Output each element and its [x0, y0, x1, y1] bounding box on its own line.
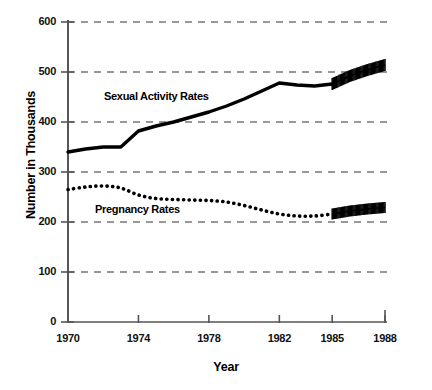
x-axis-title: Year [181, 360, 271, 374]
y-tick-label: 500 [22, 65, 56, 77]
axes [68, 20, 387, 322]
x-tick-label: 1988 [362, 332, 408, 344]
series-projection-pregnancy [332, 202, 385, 220]
data-series [68, 59, 385, 220]
y-axis-title: Number in Thousands [24, 80, 38, 230]
series-projection-sexual-activity [332, 59, 385, 90]
y-tick-label: 600 [22, 15, 56, 27]
x-tick-label: 1974 [115, 332, 161, 344]
x-tick-label: 1978 [186, 332, 232, 344]
y-tick-label: 400 [22, 115, 56, 127]
chart-container: Number in Thousands Year Sexual Activity… [0, 0, 432, 390]
x-tick-label: 1985 [309, 332, 355, 344]
series-label-pregnancy: Pregnancy Rates [95, 203, 180, 215]
x-tick-label: 1970 [45, 332, 91, 344]
y-tick-label: 200 [22, 215, 56, 227]
y-tick-label: 100 [22, 265, 56, 277]
y-tick-label: 0 [22, 315, 56, 327]
x-tick-label: 1982 [256, 332, 302, 344]
y-tick-label: 300 [22, 165, 56, 177]
series-label-sexual-activity: Sexual Activity Rates [104, 90, 209, 102]
